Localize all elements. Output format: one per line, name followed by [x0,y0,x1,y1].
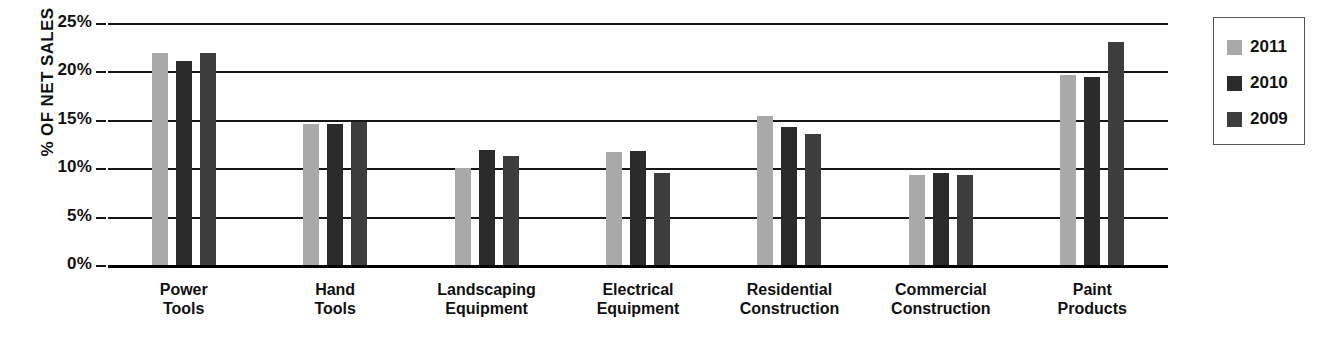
bar[interactable] [327,124,343,265]
bar[interactable] [606,152,622,265]
bar[interactable] [303,124,319,265]
x-axis-line [108,265,1168,268]
y-axis-tick-mark [96,120,106,122]
category-label-line: Equipment [411,299,562,318]
x-axis-category-label: PowerTools [108,280,259,318]
bar-groups [108,23,1168,265]
category-label-line: Products [1017,299,1168,318]
bar-chart: % OF NET SALES 25%20%15%10%5%0% PowerToo… [0,0,1320,354]
x-axis-category-label: CommercialConstruction [865,280,1016,318]
bar[interactable] [757,116,773,265]
legend-item-2009[interactable]: 2009 [1227,101,1304,137]
y-axis-tick-label: 0% [28,254,92,274]
bar[interactable] [200,53,216,265]
category-label-line: Paint [1017,280,1168,299]
bar[interactable] [805,134,821,265]
bar-group [714,23,865,265]
x-axis-category-label: ElectricalEquipment [562,280,713,318]
category-label-line: Power [108,280,259,299]
bar-group [108,23,259,265]
category-label-line: Construction [865,299,1016,318]
bar-group [865,23,1016,265]
bar[interactable] [1108,42,1124,265]
bar[interactable] [176,61,192,265]
y-axis-tick-label: 15% [28,109,92,129]
bar[interactable] [1060,75,1076,265]
legend-item-2010[interactable]: 2010 [1227,65,1304,101]
bar[interactable] [1084,77,1100,265]
bar[interactable] [654,173,670,265]
legend-item-label: 2009 [1250,109,1288,129]
bar-group [562,23,713,265]
y-axis-tick-label: 25% [28,12,92,32]
x-axis-category-label: ResidentialConstruction [714,280,865,318]
bar[interactable] [933,173,949,265]
category-label-line: Tools [108,299,259,318]
category-label-line: Construction [714,299,865,318]
y-axis-tick-label: 20% [28,60,92,80]
y-axis-tick-mark [96,71,106,73]
category-label-line: Hand [259,280,410,299]
bar[interactable] [152,53,168,265]
bar[interactable] [630,151,646,265]
y-axis-tick-mark [96,217,106,219]
category-label-line: Equipment [562,299,713,318]
legend-item-label: 2010 [1250,73,1288,93]
x-axis-category-label: HandTools [259,280,410,318]
bar[interactable] [351,122,367,265]
bar-group [411,23,562,265]
legend-item-2011[interactable]: 2011 [1227,29,1304,65]
category-label-line: Electrical [562,280,713,299]
bar[interactable] [957,175,973,265]
category-label-line: Tools [259,299,410,318]
bar-group [1017,23,1168,265]
y-axis-tick-mark [96,265,106,267]
y-axis-tick-mark [96,168,106,170]
category-label-line: Commercial [865,280,1016,299]
bar[interactable] [455,168,471,265]
y-axis-tick-mark [96,23,106,25]
x-axis-category-labels: PowerToolsHandToolsLandscapingEquipmentE… [108,280,1168,340]
y-axis-tick-label: 5% [28,206,92,226]
bar[interactable] [503,156,519,265]
legend-swatch-icon [1227,112,1242,127]
legend: 2011 2010 2009 [1213,17,1305,145]
x-axis-category-label: PaintProducts [1017,280,1168,318]
bar[interactable] [479,150,495,265]
y-axis-tick-label: 10% [28,157,92,177]
bar-group [259,23,410,265]
category-label-line: Residential [714,280,865,299]
legend-item-label: 2011 [1250,37,1287,57]
category-label-line: Landscaping [411,280,562,299]
x-axis-category-label: LandscapingEquipment [411,280,562,318]
bar[interactable] [781,127,797,265]
legend-swatch-icon [1227,40,1242,55]
bar[interactable] [909,175,925,265]
legend-swatch-icon [1227,76,1242,91]
